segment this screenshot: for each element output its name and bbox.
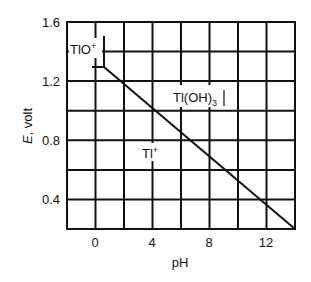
x-axis-label: pH: [172, 255, 189, 270]
svg-text:1.2: 1.2: [42, 74, 60, 89]
svg-text:1.6: 1.6: [42, 15, 60, 30]
svg-text:8: 8: [205, 235, 212, 250]
svg-text:0.8: 0.8: [42, 133, 60, 148]
svg-text:0.4: 0.4: [42, 192, 60, 207]
svg-text:4: 4: [148, 235, 155, 250]
svg-text:12: 12: [259, 235, 273, 250]
svg-text:0: 0: [91, 235, 98, 250]
pourbaix-chart: TlO+ Tl(OH)3 Tl+ 1.6 1.2 0.8 0.4 0 4 8 1…: [0, 0, 311, 282]
y-axis-label: E, volt: [20, 108, 35, 145]
y-axis-ticks: 1.6 1.2 0.8 0.4: [42, 15, 60, 207]
x-axis-ticks: 0 4 8 12: [91, 235, 273, 250]
